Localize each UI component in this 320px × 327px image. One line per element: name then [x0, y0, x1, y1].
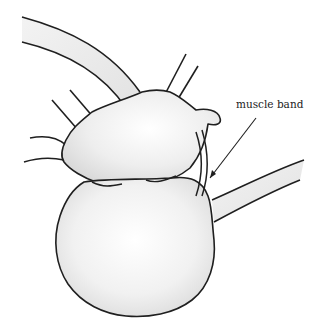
heart-diagram: muscle band: [0, 0, 320, 327]
great-vessel: [22, 17, 140, 110]
label-leader-arrow: [210, 118, 256, 178]
ventricle: [56, 176, 215, 316]
heart-illustration: [0, 0, 320, 327]
muscle-band-label: muscle band: [236, 98, 303, 110]
atria: [62, 90, 221, 186]
right-vessel: [212, 160, 304, 222]
